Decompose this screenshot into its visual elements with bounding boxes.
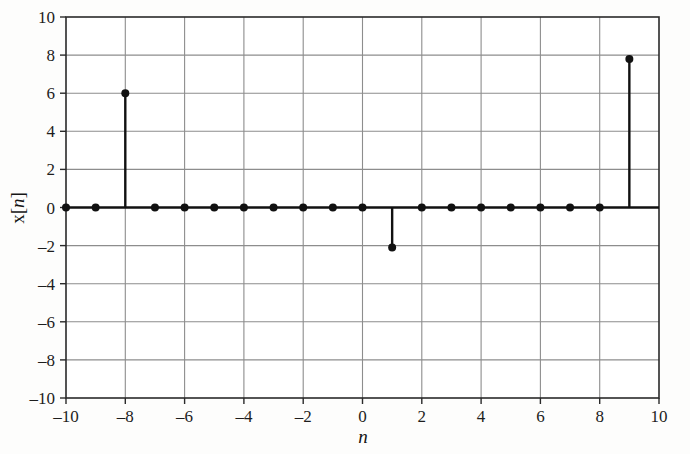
x-axis-tick-labels: –10–8–6–4–20246810 [52,407,667,426]
x-axis-tick-label: –4 [234,407,253,426]
stem-marker [62,204,70,212]
x-axis-tick-label: –8 [116,407,134,426]
stem-plot-figure: –10–8–6–4–20246810 –10–8–6–4–20246810 n … [0,0,690,454]
y-axis-title-suffix: ] [7,192,28,198]
x-axis-tick-label: 6 [536,407,545,426]
y-axis-tick-label: 6 [47,84,56,103]
y-axis-tick-labels: –10–8–6–4–20246810 [29,8,56,408]
stem-marker [181,204,189,212]
stem-marker [566,204,574,212]
stem-marker [299,204,307,212]
y-axis-tick-label: –8 [37,351,55,370]
y-axis-title-prefix: x[ [7,208,28,224]
y-axis-tick-label: 4 [47,122,56,141]
y-axis-tick-label: 2 [47,160,56,179]
stem-marker [121,89,129,97]
stem-marker [447,204,455,212]
x-axis-tick-label: –2 [294,407,312,426]
x-axis-tick-label: 2 [418,407,427,426]
stem-marker [388,244,396,252]
x-axis-ticks [66,398,659,404]
stem-marker [151,204,159,212]
x-axis-title: n [358,426,368,447]
stem-plot-canvas: –10–8–6–4–20246810 –10–8–6–4–20246810 n … [0,0,690,454]
stem-marker [596,204,604,212]
x-axis-tick-label: 8 [595,407,604,426]
y-axis-title-variable: n [7,199,28,209]
stem-marker [625,55,633,63]
x-axis-tick-label: 0 [358,407,367,426]
y-axis-tick-label: 8 [47,46,56,65]
y-axis-tick-label: –2 [37,237,55,256]
y-axis-title: x[n] [7,192,28,224]
y-axis-tick-label: –4 [37,275,56,294]
stem-marker [270,204,278,212]
stem-marker [359,204,367,212]
stem-marker [418,204,426,212]
stem-marker [477,204,485,212]
x-axis-tick-label: 10 [651,407,668,426]
y-axis-tick-label: 10 [38,8,55,27]
stem-marker [240,204,248,212]
stem-marker [92,204,100,212]
stem-marker [329,204,337,212]
y-axis-tick-label: –6 [37,313,55,332]
x-axis-tick-label: –10 [52,407,79,426]
stem-marker [210,204,218,212]
y-axis-tick-label: 0 [47,199,56,218]
x-axis-tick-label: –6 [175,407,193,426]
x-axis-tick-label: 4 [477,407,486,426]
stem-marker [507,204,515,212]
stem-marker [536,204,544,212]
y-axis-tick-label: –10 [29,389,56,408]
